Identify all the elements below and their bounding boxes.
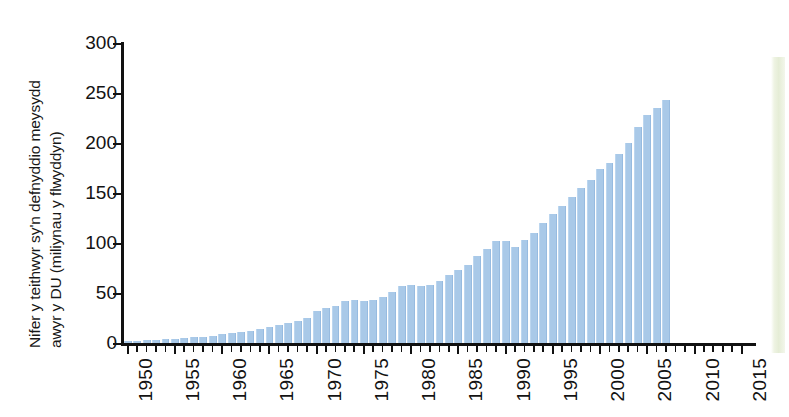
x-axis-minor-tick <box>467 343 469 352</box>
bar <box>266 327 274 343</box>
x-axis-minor-tick <box>495 343 497 352</box>
x-axis-tick-label: 2005 <box>654 358 676 401</box>
bar <box>369 300 377 343</box>
x-axis-minor-tick <box>448 343 450 352</box>
x-axis-minor-tick <box>722 343 724 352</box>
bar <box>407 285 415 343</box>
x-axis-tick-label: 1960 <box>229 358 251 401</box>
x-axis-minor-tick <box>259 343 261 352</box>
bar <box>606 163 614 343</box>
x-axis-major-tick <box>694 343 696 354</box>
bar <box>228 333 236 343</box>
y-axis-tick-label: 300 <box>85 32 117 54</box>
bar <box>398 286 406 343</box>
x-axis-minor-tick <box>297 343 299 352</box>
y-axis-tick-label: 50 <box>96 282 117 304</box>
x-axis-major-tick <box>316 343 318 354</box>
x-axis-tick-label: 1970 <box>324 358 346 401</box>
page-scan-edge-strip <box>771 57 785 353</box>
bar <box>502 241 510 343</box>
bar <box>303 318 311 343</box>
bar <box>199 337 207 343</box>
y-axis-label-line-2: awyr y DU (miliynau y flwyddyn) <box>47 131 65 348</box>
x-axis-tick-label: 1955 <box>182 358 204 401</box>
bar <box>587 180 595 343</box>
bar <box>256 329 264 343</box>
x-axis-tick-label: 1950 <box>135 358 157 401</box>
x-axis-minor-tick <box>287 343 289 352</box>
bar <box>615 154 623 343</box>
x-axis-minor-tick <box>183 343 185 352</box>
x-axis-minor-tick <box>618 343 620 352</box>
bar <box>558 206 566 343</box>
bar <box>237 332 245 343</box>
x-axis-minor-tick <box>580 343 582 352</box>
bar <box>209 336 217 343</box>
bar <box>521 240 529 343</box>
x-axis-major-tick <box>741 343 743 354</box>
bar <box>133 341 141 343</box>
bar <box>284 323 292 343</box>
y-axis-label: Nifer y teithwyr sy'n defnyddio meysydd … <box>0 0 70 360</box>
x-axis-tick-label: 1965 <box>276 358 298 401</box>
bar <box>143 340 151 343</box>
bar <box>483 249 491 343</box>
bar <box>124 341 132 343</box>
bar <box>662 100 670 343</box>
x-axis-major-tick <box>552 343 554 354</box>
bar <box>625 143 633 343</box>
bar <box>530 233 538 343</box>
bar <box>218 334 226 343</box>
bar <box>492 241 500 343</box>
x-axis-minor-tick <box>542 343 544 352</box>
x-axis-tick-label: 1975 <box>371 358 393 401</box>
bar <box>539 223 547 343</box>
x-axis-minor-tick <box>656 343 658 352</box>
bar <box>162 339 170 343</box>
x-axis-tick-label: 2010 <box>702 358 724 401</box>
bar <box>247 331 255 343</box>
x-axis-major-tick <box>599 343 601 354</box>
bar <box>454 270 462 343</box>
x-axis-minor-tick <box>561 343 563 352</box>
bar <box>275 325 283 343</box>
x-axis-minor-tick <box>703 343 705 352</box>
x-axis-minor-tick <box>429 343 431 352</box>
x-axis-minor-tick <box>420 343 422 352</box>
x-axis-major-tick <box>174 343 176 354</box>
y-axis-label-line-1: Nifer y teithwyr sy'n defnyddio meysydd <box>26 80 44 348</box>
x-axis-minor-tick <box>306 343 308 352</box>
x-axis-minor-tick <box>353 343 355 352</box>
bar <box>341 301 349 343</box>
x-axis-minor-tick <box>712 343 714 352</box>
x-axis-minor-tick <box>524 343 526 352</box>
x-axis-minor-tick <box>372 343 374 352</box>
x-axis-minor-tick <box>212 343 214 352</box>
bar <box>577 188 585 343</box>
x-axis-minor-tick <box>325 343 327 352</box>
x-axis-tick-label: 1990 <box>513 358 535 401</box>
bar <box>332 306 340 343</box>
x-axis-minor-tick <box>202 343 204 352</box>
y-axis-tick-label: 200 <box>85 132 117 154</box>
x-axis-tick-label: 1980 <box>418 358 440 401</box>
bar <box>388 292 396 343</box>
bar <box>180 338 188 343</box>
x-axis-minor-tick <box>665 343 667 352</box>
bar <box>445 275 453 343</box>
x-axis-minor-tick <box>571 343 573 352</box>
x-axis-major-tick <box>410 343 412 354</box>
x-axis-minor-tick <box>250 343 252 352</box>
x-axis-minor-tick <box>627 343 629 352</box>
bar <box>351 300 359 343</box>
bar <box>464 265 472 343</box>
x-axis-minor-tick <box>439 343 441 352</box>
bar <box>152 340 160 343</box>
bar <box>549 214 557 343</box>
bar <box>596 169 604 343</box>
bar <box>653 108 661 343</box>
x-axis-minor-tick <box>590 343 592 352</box>
y-axis-tick-label: 0 <box>106 332 117 354</box>
bar <box>171 339 179 343</box>
x-axis-minor-tick <box>193 343 195 352</box>
